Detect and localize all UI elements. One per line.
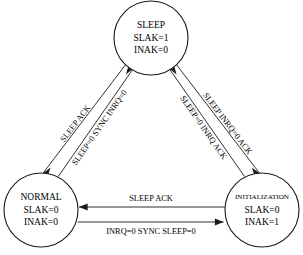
node-normal-attr-slak: SLAK=0: [24, 205, 59, 215]
node-sleep-attr-inak: INAK=0: [134, 45, 168, 55]
edge-line-sleep-to-initialization: [177, 65, 260, 173]
edge-initialization-to-normal: [79, 204, 225, 211]
edge-sleep-to-initialization: [177, 65, 260, 176]
edge-label-sleep-to-initialization: SLEEP=0 INRQ ACK: [178, 94, 228, 161]
state-diagram: SLEEP SLAK=1 INAK=0 NORMAL SLAK=0 INAK=0…: [0, 0, 303, 255]
edge-normal-to-sleep: [58, 66, 133, 176]
edge-label-sleep-to-initialization-right: SLEEP INRQ=0 ACK: [201, 91, 254, 156]
edge-label-normal-to-sleep: SLEEP=0 SYNC INRQ=0: [70, 88, 128, 167]
node-sleep-attr-slak: SLAK=1: [134, 33, 169, 43]
edge-sleep-to-normal: [43, 65, 126, 176]
arrowhead-normal-to-initialization: [215, 219, 224, 226]
arrowhead-initialization-to-normal: [79, 204, 88, 211]
node-initialization-title: INITIALIZATION: [235, 193, 289, 201]
node-sleep-title: SLEEP: [137, 20, 165, 30]
node-initialization-attr-slak: SLAK=0: [245, 205, 280, 215]
node-initialization-attr-inak: INAK=1: [245, 217, 279, 227]
edge-label-normal-to-initialization: INRQ=0 SYNC SLEEP=0: [106, 227, 195, 236]
node-normal-title: NORMAL: [20, 192, 61, 202]
edge-initialization-to-sleep: [169, 66, 244, 176]
edge-label-initialization-to-normal: SLEEP ACK: [129, 194, 173, 203]
node-normal-attr-inak: INAK=0: [24, 217, 58, 227]
edge-normal-to-initialization: [78, 219, 224, 226]
diagram-canvas: SLEEP SLAK=1 INAK=0 NORMAL SLAK=0 INAK=0…: [0, 0, 303, 255]
